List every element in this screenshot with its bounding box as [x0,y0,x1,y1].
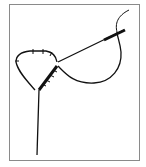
thread-tail [37,90,39,155]
stitched-outline [16,51,57,90]
thread-end [116,10,129,32]
stitch-diagram [0,0,146,167]
needle-shaft [104,30,125,40]
satin-stitch-edge [39,66,57,90]
